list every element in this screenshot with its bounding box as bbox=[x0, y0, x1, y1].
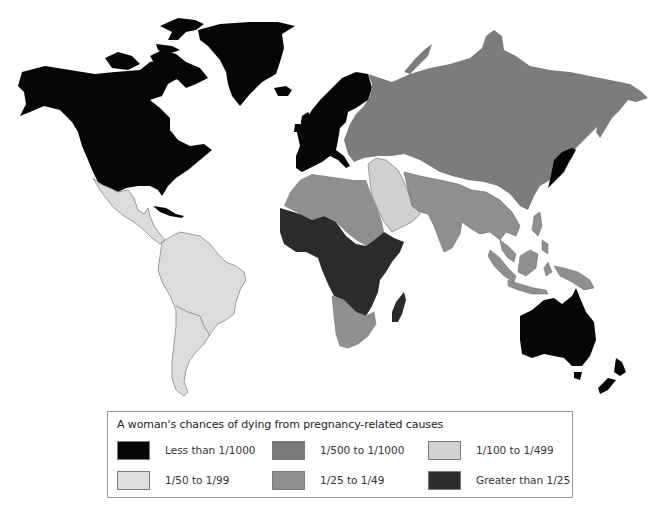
region-australia[interactable] bbox=[520, 288, 596, 366]
legend-label: Greater than 1/25 bbox=[476, 474, 570, 486]
legend-item-1-25-to-1-49: 1/25 to 1/49 bbox=[272, 468, 384, 492]
legend-swatch-pale-gray bbox=[117, 471, 150, 490]
legend-swatch-dark-gray bbox=[428, 471, 461, 490]
legend-label: Less than 1/1000 bbox=[165, 444, 256, 456]
region-south-america[interactable] bbox=[158, 232, 246, 396]
legend-label: 1/500 to 1/1000 bbox=[320, 444, 404, 456]
legend-item-1-500-to-1-1000: 1/500 to 1/1000 bbox=[272, 438, 404, 462]
legend-label: 1/50 to 1/99 bbox=[165, 474, 229, 486]
legend-title: A woman's chances of dying from pregnanc… bbox=[117, 418, 443, 431]
legend-swatch-black bbox=[117, 441, 150, 460]
legend-swatch-light-gray bbox=[428, 441, 461, 460]
legend-item-1-50-to-1-99: 1/50 to 1/99 bbox=[117, 468, 229, 492]
legend-item-greater-than-1-25: Greater than 1/25 bbox=[428, 468, 570, 492]
legend-item-less-than-1-1000: Less than 1/1000 bbox=[117, 438, 256, 462]
region-cuba[interactable] bbox=[153, 206, 184, 218]
region-iceland[interactable] bbox=[274, 86, 292, 96]
region-new-zealand[interactable] bbox=[598, 358, 626, 394]
region-tasmania[interactable] bbox=[574, 372, 582, 380]
legend-swatch-gray bbox=[272, 471, 305, 490]
legend-item-1-100-to-1-499: 1/100 to 1/499 bbox=[428, 438, 554, 462]
legend-label: 1/100 to 1/499 bbox=[476, 444, 554, 456]
legend-swatch-medium-gray bbox=[272, 441, 305, 460]
map-legend: A woman's chances of dying from pregnanc… bbox=[107, 411, 573, 498]
region-madagascar[interactable] bbox=[392, 292, 406, 322]
world-map bbox=[0, 0, 664, 410]
legend-label: 1/25 to 1/49 bbox=[320, 474, 384, 486]
